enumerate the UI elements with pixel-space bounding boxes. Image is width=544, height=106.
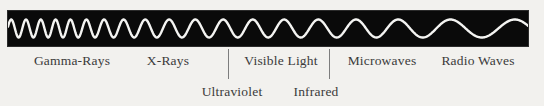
- band-label-infrared: Infrared: [293, 84, 338, 100]
- band-label-x-rays: X-Rays: [147, 53, 189, 69]
- waveform-path: [8, 20, 528, 38]
- divider-visible-right: [329, 49, 330, 79]
- band-label-microwaves: Microwaves: [348, 53, 417, 69]
- band-label-gamma-rays: Gamma-Rays: [34, 53, 110, 69]
- spectrum-waveform: [8, 11, 528, 46]
- band-label-ultraviolet: Ultraviolet: [202, 84, 263, 100]
- band-label-radio-waves: Radio Waves: [441, 53, 514, 69]
- divider-visible-left: [228, 49, 229, 79]
- band-label-visible-light: Visible Light: [244, 53, 317, 69]
- electromagnetic-spectrum-figure: Gamma-Rays X-Rays Visible Light Microwav…: [0, 0, 544, 106]
- spectrum-bar-inner: [8, 11, 528, 46]
- spectrum-bar: [8, 11, 528, 46]
